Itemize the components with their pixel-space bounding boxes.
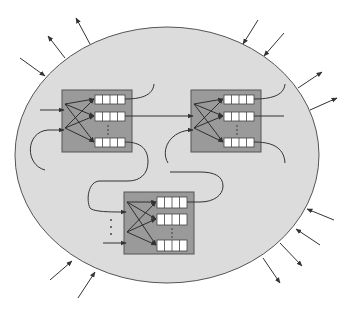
node-top-right (191, 90, 261, 152)
queueing-network-diagram (0, 0, 351, 313)
node-bottom (124, 192, 194, 254)
node-top-left (62, 90, 132, 152)
